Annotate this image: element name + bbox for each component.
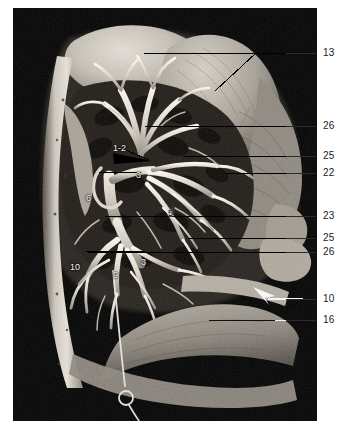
index-label-22: 22: [323, 168, 335, 178]
leader-line-16: [286, 320, 316, 321]
index-label-23: 23: [323, 211, 335, 221]
index-label-25-upper: 25: [323, 151, 335, 161]
index-label-10: 10: [323, 294, 335, 304]
anatomical-photograph: 1-2 3 6 5 3 10 9: [13, 8, 317, 421]
photo-label-5: 5: [168, 209, 173, 218]
leader-line-10: [286, 299, 316, 300]
photo-label-1-2: 1-2: [113, 144, 126, 153]
index-label-25-lower: 25: [323, 233, 335, 243]
photo-label-10: 10: [70, 263, 80, 272]
leader-line-25-upper: [286, 156, 316, 157]
photo-label-3-lower: 3: [141, 258, 146, 267]
photo-label-9: 9: [113, 271, 118, 280]
figure-page: 1-2 3 6 5 3 10 9 13 26 25 22 23 25 26 10…: [0, 0, 345, 426]
photo-label-3-upper: 3: [136, 171, 141, 180]
leader-line-13: [286, 53, 316, 54]
photo-label-6: 6: [86, 194, 91, 203]
leader-line-26-lower: [286, 252, 316, 253]
leader-line-23: [286, 216, 316, 217]
leader-line-22: [286, 173, 316, 174]
index-label-26-lower: 26: [323, 247, 335, 257]
leader-line-26-upper: [286, 126, 316, 127]
specimen-image: [13, 8, 317, 421]
index-label-16: 16: [323, 315, 335, 325]
index-label-13: 13: [323, 48, 335, 58]
index-label-26-upper: 26: [323, 121, 335, 131]
leader-line-25-lower: [286, 238, 316, 239]
